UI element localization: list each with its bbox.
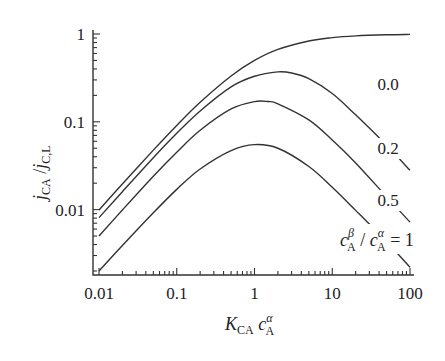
y-tick-label: 1 xyxy=(77,25,86,44)
chart-canvas: 0.010.11101000.010.11 0.00.20.5 jCA /jC,… xyxy=(0,0,445,361)
x-tick-label: 1 xyxy=(250,284,259,303)
y-axis-title: jCA /jC,L xyxy=(30,145,53,202)
x-tick-label: 0.1 xyxy=(166,284,187,303)
x-tick-label: 0.01 xyxy=(84,284,114,303)
x-axis-title: KCA cαA xyxy=(224,311,275,338)
series-label-0.0: 0.0 xyxy=(377,75,398,94)
y-tick-label: 0.01 xyxy=(55,201,85,220)
x-tick-label: 100 xyxy=(397,284,423,303)
series-label-0.5: 0.5 xyxy=(377,191,398,210)
tick-labels-group: 0.010.11101000.010.11 xyxy=(55,25,423,303)
curve-ratio-0.5 xyxy=(99,101,410,236)
series-label-ratio-1: cβA / cαA = 1 xyxy=(340,226,414,254)
x-tick-label: 10 xyxy=(324,284,341,303)
series-label-0.2: 0.2 xyxy=(377,139,398,158)
y-tick-label: 0.1 xyxy=(64,113,85,132)
